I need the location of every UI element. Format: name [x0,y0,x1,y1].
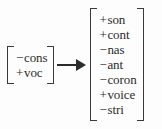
feature-sign: + [99,12,107,27]
feature-row: + voice [99,87,136,102]
feature-sign: + [99,27,107,42]
feature-name: cont [107,27,129,42]
feature-name: cons [24,50,47,65]
feature-row: − nas [99,42,136,57]
phonological-rule-figure: − cons + voc + son + cont [0,0,162,129]
feature-sign: − [99,42,107,57]
arrow-head [76,59,86,71]
rightwards-arrow-icon [57,58,87,72]
feature-name: coron [107,72,136,87]
feature-row: − stri [99,102,136,117]
feature-name: stri [107,102,123,117]
feature-row: − ant [99,57,136,72]
feature-name: voice [107,87,135,102]
feature-name: ant [107,57,123,72]
feature-row: + voc [16,65,47,80]
target-feature-list: + son + cont − nas − ant − coron [99,12,136,117]
feature-name: son [107,12,125,27]
feature-sign: + [16,65,24,80]
source-feature-list: − cons + voc [16,50,47,80]
feature-row: − cons [16,50,47,65]
feature-sign: − [99,102,107,117]
rule-expression: − cons + voc + son + cont [0,0,162,129]
feature-row: + cont [99,27,136,42]
feature-name: voc [24,65,42,80]
feature-sign: + [99,87,107,102]
feature-name: nas [107,42,124,57]
feature-sign: − [99,57,107,72]
source-feature-matrix: − cons + voc [7,46,54,84]
feature-sign: − [16,50,24,65]
target-feature-matrix: + son + cont − nas − ant − coron [90,8,143,121]
feature-sign: − [99,72,107,87]
feature-row: + son [99,12,136,27]
feature-row: − coron [99,72,136,87]
